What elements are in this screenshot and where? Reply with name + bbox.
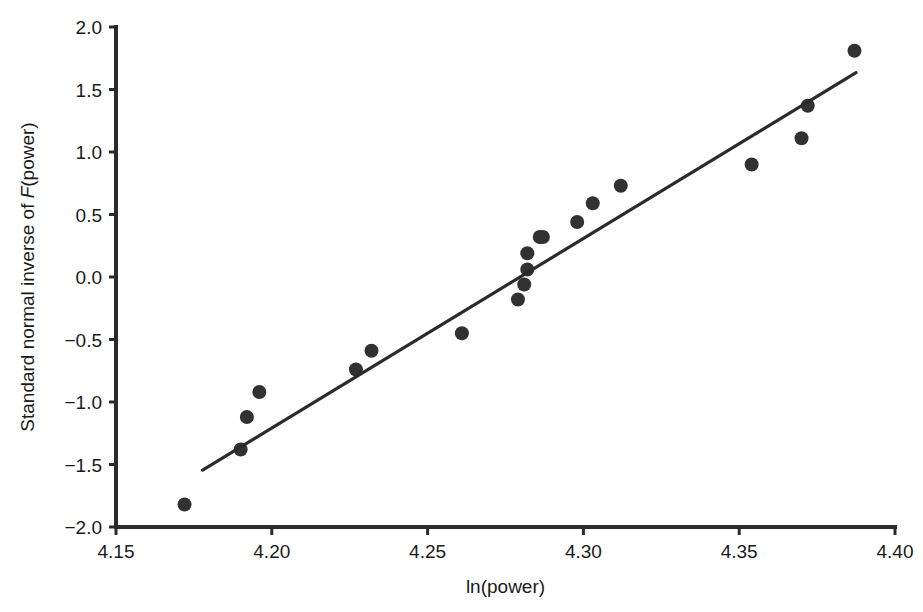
y-tick-label: 0.0 — [76, 267, 102, 288]
data-point — [178, 498, 192, 512]
y-tick-label: −1.0 — [64, 392, 102, 413]
normal-probability-plot: −2.0−1.5−1.0−0.50.00.51.01.52.04.154.204… — [0, 0, 923, 612]
x-tick-label: 4.25 — [409, 541, 446, 562]
x-axis-title: ln(power) — [466, 576, 545, 597]
data-point — [511, 293, 525, 307]
data-point — [455, 326, 469, 340]
y-tick-label: 0.5 — [76, 205, 102, 226]
y-tick-label: 2.0 — [76, 17, 102, 38]
x-tick-label: 4.35 — [721, 541, 758, 562]
y-axis-title: Standard normal inverse of F(power) — [17, 122, 38, 431]
data-point — [517, 278, 531, 292]
data-point — [240, 410, 254, 424]
x-tick-label: 4.30 — [565, 541, 602, 562]
data-point — [365, 344, 379, 358]
data-point — [536, 230, 550, 244]
data-point — [586, 196, 600, 210]
y-tick-label: 1.0 — [76, 142, 102, 163]
data-point — [745, 158, 759, 172]
data-point — [847, 44, 861, 58]
y-tick-label: −2.0 — [64, 517, 102, 538]
x-tick-label: 4.15 — [98, 541, 135, 562]
chart-page: −2.0−1.5−1.0−0.50.00.51.01.52.04.154.204… — [0, 0, 923, 612]
y-tick-label: 1.5 — [76, 80, 102, 101]
data-point — [252, 385, 266, 399]
data-point — [614, 179, 628, 193]
data-point — [520, 246, 534, 260]
data-point — [570, 215, 584, 229]
y-tick-label: −0.5 — [64, 330, 102, 351]
x-tick-label: 4.20 — [253, 541, 290, 562]
x-tick-label: 4.40 — [877, 541, 914, 562]
reference-fit-line — [203, 73, 856, 471]
data-point — [795, 131, 809, 145]
y-tick-label: −1.5 — [64, 455, 102, 476]
